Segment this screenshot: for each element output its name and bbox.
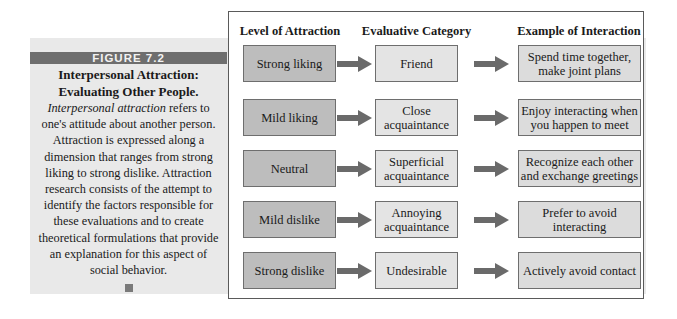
header-example: Example of Interaction — [509, 24, 649, 39]
figure-title: Interpersonal Attraction: Evaluating Oth… — [30, 66, 227, 100]
arrow-right-icon — [474, 212, 509, 228]
figure-description: Interpersonal attraction refers to one's… — [30, 100, 227, 278]
arrow-right-icon — [337, 263, 372, 279]
example-box: Recognize each other and exchange greeti… — [518, 150, 641, 187]
category-box: Superficial acquaintance — [375, 150, 458, 187]
arrow-right-icon — [474, 110, 509, 126]
arrow-right-icon — [474, 161, 509, 177]
category-box: Undesirable — [375, 252, 458, 289]
level-box: Mild dislike — [243, 201, 336, 238]
description-term: Interpersonal attraction — [47, 101, 166, 115]
example-box: Enjoy interacting when you happen to mee… — [518, 99, 641, 136]
arrow-right-icon — [337, 110, 372, 126]
example-box: Prefer to avoid interacting — [518, 201, 641, 238]
example-box: Actively avoid contact — [518, 252, 641, 289]
category-box: Annoying acquaintance — [375, 201, 458, 238]
arrow-right-icon — [337, 212, 372, 228]
arrow-right-icon — [337, 56, 372, 72]
header-level: Level of Attraction — [235, 24, 345, 39]
description-text: refers to one's attitude about another p… — [39, 101, 219, 277]
level-box: Neutral — [243, 150, 336, 187]
arrow-right-icon — [474, 263, 509, 279]
header-category: Evaluative Category — [359, 24, 474, 39]
level-box: Mild liking — [243, 99, 336, 136]
category-box: Close acquaintance — [375, 99, 458, 136]
example-box: Spend time together, make joint plans — [518, 45, 641, 82]
figure-caption: FIGURE 7.2 Interpersonal Attraction: Eva… — [30, 52, 227, 296]
arrow-right-icon — [474, 56, 509, 72]
level-box: Strong liking — [243, 45, 336, 82]
arrow-right-icon — [337, 161, 372, 177]
category-box: Friend — [375, 45, 458, 82]
end-square-icon — [125, 284, 133, 292]
level-box: Strong dislike — [243, 252, 336, 289]
figure-label: FIGURE 7.2 — [30, 52, 227, 64]
attraction-diagram: Level of Attraction Evaluative Category … — [228, 11, 644, 299]
